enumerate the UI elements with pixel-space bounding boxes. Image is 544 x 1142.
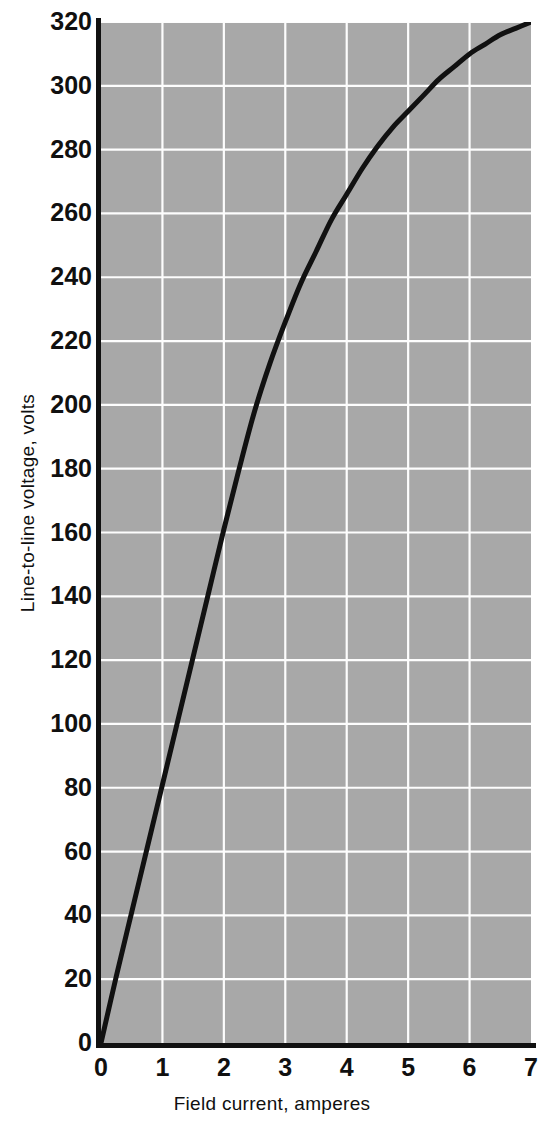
y-tick-label: 0 <box>6 1030 92 1055</box>
y-tick-label: 100 <box>6 711 92 736</box>
y-axis-tick-labels: 0204060801001201401601802002202402602803… <box>0 0 92 1142</box>
y-tick-label: 80 <box>6 775 92 800</box>
x-tick-label: 4 <box>327 1052 367 1082</box>
y-axis-spine <box>96 18 101 1047</box>
y-tick-label: 20 <box>6 966 92 991</box>
x-tick-label: 0 <box>81 1052 121 1082</box>
y-tick-label: 300 <box>6 73 92 98</box>
x-tick-label: 3 <box>265 1052 305 1082</box>
x-axis-title: Field current, amperes <box>0 1093 544 1115</box>
y-tick-label: 260 <box>6 200 92 225</box>
y-tick-label: 240 <box>6 264 92 289</box>
y-tick-label: 320 <box>6 9 92 34</box>
y-tick-label: 40 <box>6 902 92 927</box>
horizontal-gridlines <box>101 22 531 979</box>
x-tick-label: 7 <box>511 1052 544 1082</box>
chart-figure: 0204060801001201401601802002202402602803… <box>0 0 544 1142</box>
x-tick-label: 6 <box>450 1052 490 1082</box>
x-tick-label: 5 <box>388 1052 428 1082</box>
y-axis-title: Line-to-line voltage, volts <box>17 293 39 713</box>
x-axis-spine <box>96 1043 536 1048</box>
plot-area <box>101 22 531 1043</box>
y-tick-label: 60 <box>6 839 92 864</box>
x-tick-label: 1 <box>142 1052 182 1082</box>
x-tick-label: 2 <box>204 1052 244 1082</box>
saturation-curve-svg <box>101 22 531 1043</box>
y-tick-label: 280 <box>6 137 92 162</box>
